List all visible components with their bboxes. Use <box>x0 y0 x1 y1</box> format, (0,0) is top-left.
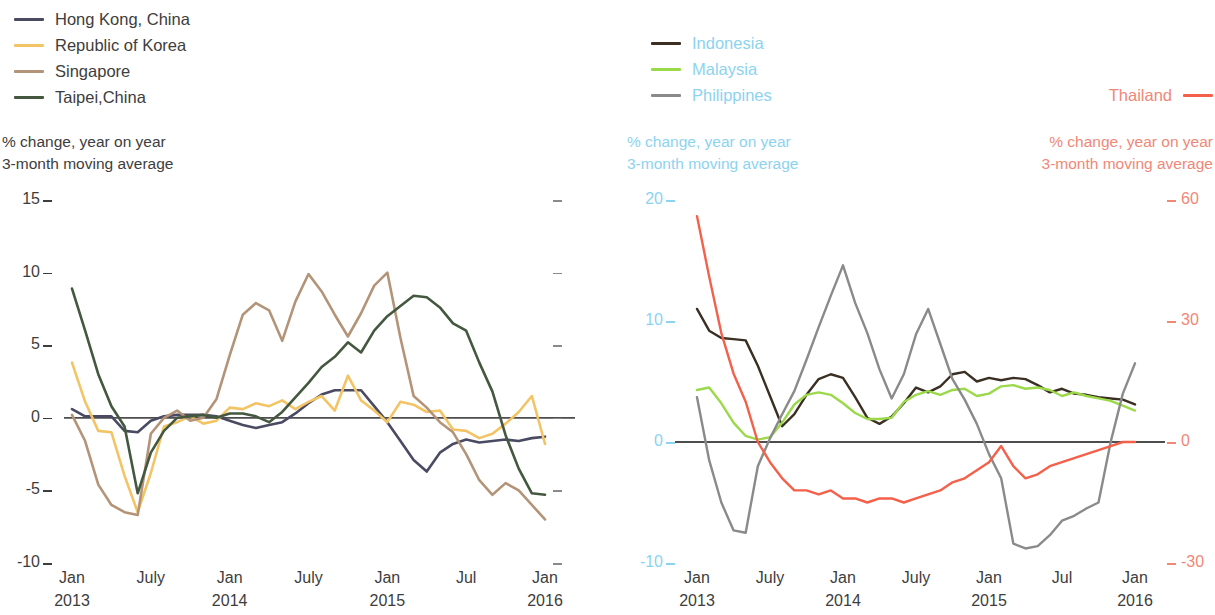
y-axis-tick-mark-left <box>666 321 675 323</box>
y-axis-tick-label-right: 30 <box>1181 311 1215 329</box>
y-axis-tick-mark-right <box>553 273 562 275</box>
plot-area-right: 20100-1060300-30Jan 2013JulyJan 2014July… <box>615 0 1215 615</box>
y-axis-tick-label-right: 0 <box>1181 432 1215 450</box>
chart-panel-left: Hong Kong, ChinaRepublic of KoreaSingapo… <box>0 0 600 615</box>
y-axis-tick-mark-left <box>43 563 52 565</box>
y-axis-tick-mark-right <box>1167 563 1176 565</box>
y-axis-tick-mark-right <box>553 563 562 565</box>
y-axis-tick-mark-left <box>43 490 52 492</box>
y-axis-tick-label-right: 60 <box>1181 190 1215 208</box>
y-axis-tick-mark-left <box>43 273 52 275</box>
y-axis-tick-label-left: -5 <box>0 480 40 498</box>
y-axis-tick-mark-right <box>1167 442 1176 444</box>
y-axis-tick-mark-right <box>1167 200 1176 202</box>
y-axis-tick-mark-left <box>43 200 52 202</box>
y-axis-tick-label-left: 0 <box>0 408 40 426</box>
y-axis-tick-mark-left <box>666 563 675 565</box>
y-axis-tick-label-left: 0 <box>603 432 663 450</box>
y-axis-tick-label-left: 5 <box>0 335 40 353</box>
y-axis-tick-mark-left <box>43 418 52 420</box>
y-axis-tick-mark-right <box>553 418 562 420</box>
x-axis-tick-label: Jan 2016 <box>1085 566 1185 612</box>
y-axis-tick-label-left: 10 <box>603 311 663 329</box>
y-axis-tick-mark-left <box>43 345 52 347</box>
plot-area-left: 151050-5-10Jan 2013JulyJan 2014JulyJan 2… <box>0 0 600 615</box>
plot-svg <box>0 0 600 615</box>
chart-panel-right: IndonesiaMalaysiaPhilippines Thailand % … <box>615 0 1215 615</box>
y-axis-tick-mark-right <box>553 200 562 202</box>
series-line-singapore <box>72 273 545 520</box>
x-axis-tick-label: Jan 2016 <box>495 566 595 612</box>
y-axis-tick-mark-right <box>553 345 562 347</box>
y-axis-tick-mark-left <box>666 442 675 444</box>
plot-svg <box>615 0 1215 615</box>
y-axis-tick-label-left: 10 <box>0 263 40 281</box>
series-line-philippines <box>697 265 1135 548</box>
y-axis-tick-mark-right <box>1167 321 1176 323</box>
y-axis-tick-mark-right <box>553 490 562 492</box>
y-axis-tick-mark-left <box>666 200 675 202</box>
series-line-indonesia <box>697 309 1135 426</box>
y-axis-tick-label-left: 15 <box>0 190 40 208</box>
series-line-thailand <box>697 216 1135 502</box>
series-line-taipei-china <box>72 289 545 495</box>
y-axis-tick-label-left: 20 <box>603 190 663 208</box>
series-line-malaysia <box>697 385 1135 439</box>
y-axis-tick-label-right: -30 <box>1181 553 1215 571</box>
